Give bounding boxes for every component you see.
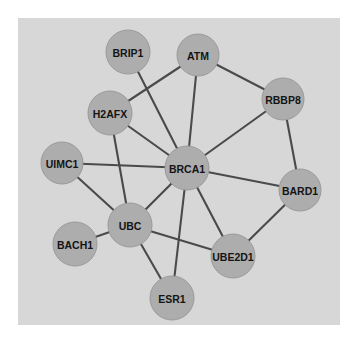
network-graph: BRIP1ATMRBBP8H2AFXUIMC1BRCA1BARD1UBCBACH… bbox=[0, 0, 361, 346]
node-uimc1[interactable]: UIMC1 bbox=[41, 142, 83, 184]
node-circle-esr1[interactable] bbox=[150, 276, 194, 320]
node-circle-ube2d1[interactable] bbox=[211, 234, 255, 278]
node-layer: BRIP1ATMRBBP8H2AFXUIMC1BRCA1BARD1UBCBACH… bbox=[41, 30, 321, 320]
node-circle-atm[interactable] bbox=[177, 34, 219, 76]
node-circle-ubc[interactable] bbox=[108, 203, 152, 247]
node-bach1[interactable]: BACH1 bbox=[53, 222, 97, 266]
node-circle-bard1[interactable] bbox=[279, 169, 321, 211]
node-circle-h2afx[interactable] bbox=[88, 91, 132, 135]
node-ubc[interactable]: UBC bbox=[108, 203, 152, 247]
node-brip1[interactable]: BRIP1 bbox=[106, 30, 150, 74]
node-atm[interactable]: ATM bbox=[177, 34, 219, 76]
node-bard1[interactable]: BARD1 bbox=[279, 169, 321, 211]
node-circle-brca1[interactable] bbox=[165, 146, 209, 190]
node-circle-rbbp8[interactable] bbox=[262, 78, 304, 120]
node-circle-brip1[interactable] bbox=[106, 30, 150, 74]
node-circle-uimc1[interactable] bbox=[41, 142, 83, 184]
node-h2afx[interactable]: H2AFX bbox=[88, 91, 132, 135]
node-esr1[interactable]: ESR1 bbox=[150, 276, 194, 320]
node-brca1[interactable]: BRCA1 bbox=[165, 146, 209, 190]
node-rbbp8[interactable]: RBBP8 bbox=[262, 78, 304, 120]
network-figure: BRIP1ATMRBBP8H2AFXUIMC1BRCA1BARD1UBCBACH… bbox=[0, 0, 361, 346]
node-ube2d1[interactable]: UBE2D1 bbox=[211, 234, 255, 278]
node-circle-bach1[interactable] bbox=[53, 222, 97, 266]
